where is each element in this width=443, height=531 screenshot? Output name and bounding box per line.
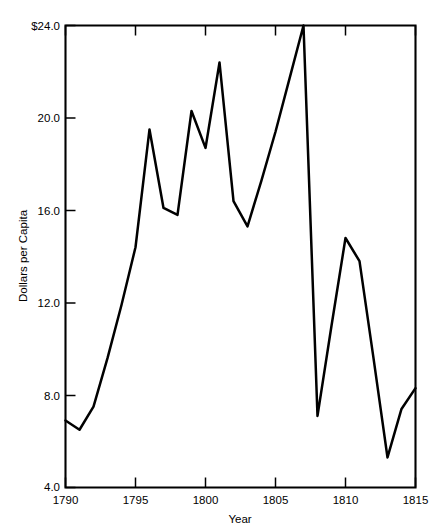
y-tick-label-24: $24.0	[31, 20, 60, 32]
x-tick-label-1800: 1800	[193, 494, 219, 506]
y-tick-label-16: 16.0	[38, 205, 60, 217]
x-tick-label-1810: 1810	[333, 494, 359, 506]
x-tick-labels: 1790 1795 1800 1805 1810 1815	[53, 494, 429, 506]
x-tick-label-1815: 1815	[403, 494, 429, 506]
line-chart: $24.0 20.0 16.0 12.0 8.0 4.0 1790 1795 1…	[0, 0, 443, 531]
x-tick-label-1790: 1790	[53, 494, 79, 506]
chart-figure: $24.0 20.0 16.0 12.0 8.0 4.0 1790 1795 1…	[0, 0, 443, 531]
y-tick-marks	[66, 26, 76, 488]
x-tick-label-1805: 1805	[263, 494, 289, 506]
plot-frame	[66, 26, 416, 488]
data-series-line	[66, 26, 416, 458]
x-tick-marks	[66, 26, 416, 488]
x-tick-label-1795: 1795	[123, 494, 149, 506]
y-tick-label-4: 4.0	[44, 481, 60, 493]
y-axis-title: Dollars per Capita	[17, 209, 29, 302]
x-axis-title: Year	[228, 513, 251, 525]
y-tick-labels: $24.0 20.0 16.0 12.0 8.0 4.0	[31, 20, 60, 493]
y-tick-label-8: 8.0	[44, 390, 60, 402]
y-tick-label-12: 12.0	[38, 297, 60, 309]
y-tick-label-20: 20.0	[38, 112, 60, 124]
